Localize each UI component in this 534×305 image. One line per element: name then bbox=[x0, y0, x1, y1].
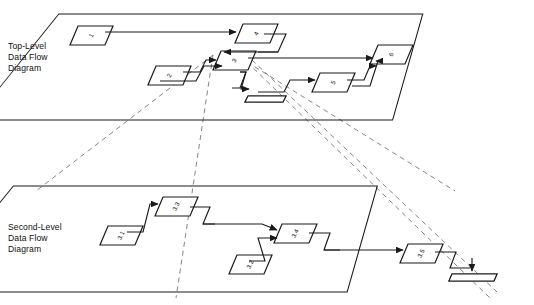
second-level-caption-line-2: Data Flow bbox=[8, 233, 48, 243]
top-level-caption-line-3: Diagram bbox=[8, 63, 41, 73]
diagram-canvas: 1 4 3 2 5 bbox=[0, 0, 534, 305]
process-3-1[interactable]: 3.1 bbox=[100, 226, 143, 245]
process-3[interactable]: 3 bbox=[213, 51, 256, 70]
second-level-caption: Second-LevelData FlowDiagram bbox=[8, 222, 62, 256]
data-store-top[interactable] bbox=[245, 96, 286, 102]
process-2[interactable]: 2 bbox=[148, 66, 191, 85]
diagram-svg: 1 4 3 2 5 bbox=[0, 0, 534, 305]
process-3-2[interactable]: 3.2 bbox=[229, 255, 272, 274]
top-level-processes: 1 4 3 2 5 bbox=[70, 24, 413, 102]
second-level-caption-line-3: Diagram bbox=[8, 244, 41, 254]
top-level-caption-line-1: Top-Level bbox=[8, 41, 46, 51]
process-3-5[interactable]: 3.5 bbox=[400, 244, 443, 263]
data-store-second[interactable] bbox=[449, 274, 497, 281]
second-level-processes: 3.3 3.1 3.4 3.2 3.5 bbox=[100, 197, 497, 281]
process-5[interactable]: 5 bbox=[312, 73, 355, 92]
process-1[interactable]: 1 bbox=[70, 26, 113, 45]
top-level-caption: Top-LevelData FlowDiagram bbox=[8, 41, 48, 75]
second-level-caption-line-1: Second-Level bbox=[8, 222, 62, 232]
top-level-caption-line-2: Data Flow bbox=[8, 52, 48, 62]
